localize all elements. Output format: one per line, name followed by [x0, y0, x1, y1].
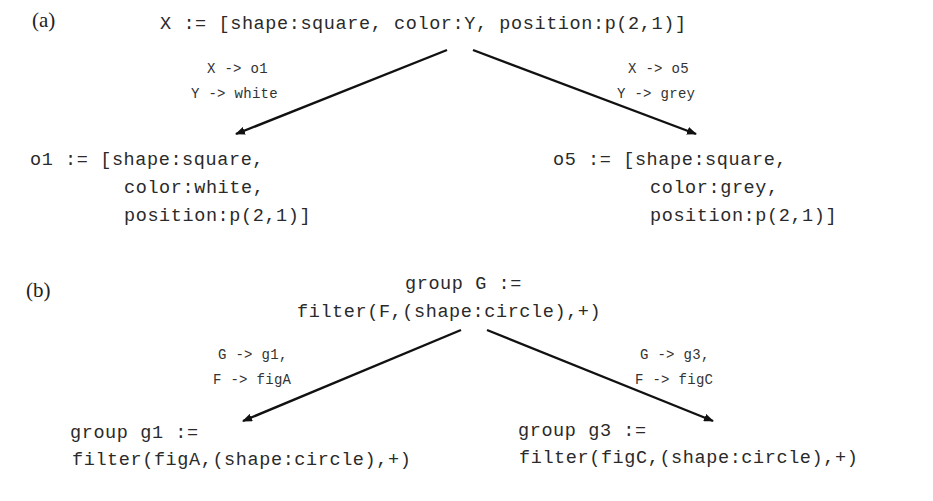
- panel-b-root-line-1: group G :=: [405, 274, 522, 295]
- panel-b-left-node-line-1: group g1 :=: [70, 423, 199, 444]
- panel-b-right-node-line-2: filter(figC,(shape:circle),+): [519, 448, 858, 469]
- panel-a-left-edge-label-1: X -> o1: [207, 61, 268, 77]
- panel-a-right-node-line-3: position:p(2,1)]: [650, 206, 837, 227]
- panel-b-label: (b): [26, 278, 51, 303]
- panel-a-root-node: X := [shape:square, color:Y, position:p(…: [160, 14, 687, 35]
- panel-a-right-node-line-2: color:grey,: [650, 178, 779, 199]
- panel-a-left-node-line-1: o1 := [shape:square,: [30, 150, 264, 171]
- panel-a-right-edge-label-2: Y -> grey: [617, 86, 695, 102]
- panel-a-right-node-line-1: o5 := [shape:square,: [553, 150, 787, 171]
- panel-a-left-edge-label-2: Y -> white: [191, 86, 278, 102]
- panel-a-left-node-line-3: position:p(2,1)]: [124, 206, 311, 227]
- panel-b-left-node-line-2: filter(figA,(shape:circle),+): [72, 450, 411, 471]
- panel-a-right-edge-label-1: X -> o5: [628, 61, 689, 77]
- panel-b-root-line-2: filter(F,(shape:circle),+): [297, 302, 601, 323]
- panel-b-right-node-line-1: group g3 :=: [518, 421, 647, 442]
- panel-b-right-edge-label-1: G -> g3,: [640, 347, 710, 363]
- panel-b-left-edge-label-2: F -> figA: [213, 372, 291, 388]
- panel-a-left-node-line-2: color:white,: [124, 178, 264, 199]
- panel-a-label: (a): [32, 8, 55, 33]
- panel-b-left-edge-label-1: G -> g1,: [218, 347, 288, 363]
- panel-b-right-edge-label-2: F -> figC: [635, 372, 713, 388]
